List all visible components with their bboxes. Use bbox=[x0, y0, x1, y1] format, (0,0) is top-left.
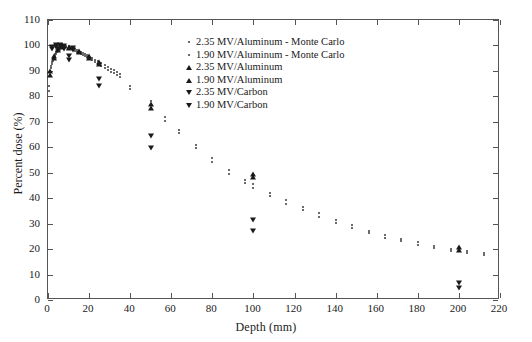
legend-marker-glyph bbox=[186, 90, 192, 95]
x-tick-label: 200 bbox=[450, 303, 467, 314]
x-tick-label: 100 bbox=[244, 303, 261, 314]
data-point bbox=[164, 116, 166, 118]
legend-marker-glyph bbox=[186, 65, 192, 70]
data-point bbox=[48, 90, 50, 92]
data-point bbox=[250, 217, 256, 222]
data-point bbox=[66, 58, 72, 63]
y-tick-label: 10 bbox=[0, 268, 40, 279]
data-point bbox=[96, 61, 102, 66]
x-tick-label: 180 bbox=[409, 303, 426, 314]
data-point bbox=[450, 250, 452, 252]
y-tick bbox=[48, 300, 53, 301]
down-triangle-icon bbox=[182, 103, 196, 108]
legend-item: 2.35 MV/Aluminum - Monte Carlo bbox=[182, 36, 382, 49]
data-point bbox=[195, 147, 197, 149]
dot-icon bbox=[182, 54, 196, 56]
data-point bbox=[302, 206, 304, 208]
data-point bbox=[113, 69, 115, 71]
legend-label: 1.90 MV/Aluminum bbox=[196, 74, 282, 87]
legend-item: 1.90 MV/Aluminum bbox=[182, 74, 382, 87]
data-point bbox=[116, 71, 118, 73]
data-point bbox=[70, 48, 76, 53]
y-tick bbox=[493, 300, 498, 301]
data-point bbox=[244, 182, 246, 184]
data-point bbox=[164, 120, 166, 122]
legend-marker-glyph bbox=[186, 78, 192, 83]
data-point bbox=[48, 85, 50, 87]
data-point bbox=[211, 161, 213, 163]
data-point bbox=[252, 187, 254, 189]
data-point bbox=[228, 173, 230, 175]
y-tick-label: 80 bbox=[0, 90, 40, 101]
legend-marker-glyph bbox=[188, 54, 190, 56]
data-point bbox=[456, 285, 462, 290]
data-point bbox=[148, 133, 154, 138]
data-point bbox=[110, 71, 112, 73]
x-tick-label: 60 bbox=[165, 303, 176, 314]
data-point bbox=[51, 56, 57, 61]
legend-item: 1.90 MV/Aluminum - Monte Carlo bbox=[182, 49, 382, 62]
x-tick-label: 80 bbox=[206, 303, 217, 314]
legend-label: 1.90 MV/Aluminum - Monte Carlo bbox=[196, 49, 344, 62]
data-point bbox=[351, 224, 353, 226]
data-point bbox=[107, 66, 109, 68]
data-point bbox=[351, 227, 353, 229]
data-point bbox=[252, 183, 254, 185]
data-point bbox=[244, 179, 246, 181]
x-tick-label: 220 bbox=[491, 303, 508, 314]
y-tick-label: 0 bbox=[0, 294, 40, 305]
data-point bbox=[384, 234, 386, 236]
data-point bbox=[250, 229, 256, 234]
x-tick bbox=[500, 20, 501, 25]
data-point bbox=[250, 175, 256, 180]
y-tick-label: 20 bbox=[0, 243, 40, 254]
y-tick-label: 50 bbox=[0, 166, 40, 177]
legend-label: 2.35 MV/Aluminum bbox=[196, 61, 282, 74]
data-point bbox=[335, 222, 337, 224]
data-point bbox=[51, 63, 53, 65]
data-point bbox=[116, 74, 118, 76]
data-point bbox=[318, 212, 320, 214]
data-point bbox=[302, 209, 304, 211]
x-tick-label: 140 bbox=[326, 303, 343, 314]
x-tick-label: 40 bbox=[124, 303, 135, 314]
y-tick-label: 40 bbox=[0, 192, 40, 203]
y-tick-label: 70 bbox=[0, 115, 40, 126]
legend-item: 2.35 MV/Aluminum bbox=[182, 61, 382, 74]
y-tick-label: 90 bbox=[0, 64, 40, 75]
data-point bbox=[47, 72, 53, 77]
legend-label: 2.35 MV/Aluminum - Monte Carlo bbox=[196, 36, 344, 49]
data-point bbox=[148, 105, 154, 110]
y-tick-label: 100 bbox=[0, 39, 40, 50]
data-point bbox=[148, 145, 154, 150]
data-point bbox=[129, 85, 131, 87]
legend-item: 1.90 MV/Carbon bbox=[182, 99, 382, 112]
x-tick-label: 120 bbox=[285, 303, 302, 314]
legend-label: 1.90 MV/Carbon bbox=[196, 99, 268, 112]
down-triangle-icon bbox=[182, 90, 196, 95]
legend-marker-glyph bbox=[188, 41, 190, 43]
data-point bbox=[129, 88, 131, 90]
y-tick-label: 30 bbox=[0, 217, 40, 228]
legend-marker-glyph bbox=[186, 103, 192, 108]
data-point bbox=[228, 169, 230, 171]
data-point bbox=[269, 192, 271, 194]
data-point bbox=[417, 244, 419, 246]
data-point bbox=[107, 69, 109, 71]
up-triangle-icon bbox=[182, 78, 196, 83]
legend-item: 2.35 MV/Carbon bbox=[182, 86, 382, 99]
data-point bbox=[119, 76, 121, 78]
data-point bbox=[318, 216, 320, 218]
data-point bbox=[86, 55, 92, 60]
data-point bbox=[285, 199, 287, 201]
data-point bbox=[119, 73, 121, 75]
data-point bbox=[456, 248, 462, 253]
data-point bbox=[96, 76, 102, 81]
data-point bbox=[368, 230, 370, 232]
x-tick-label: 160 bbox=[367, 303, 384, 314]
data-point bbox=[433, 247, 435, 249]
pdd-scatter-chart: Percent dose (%) Depth (mm) 010203040506… bbox=[0, 0, 532, 342]
data-point bbox=[211, 157, 213, 159]
data-point bbox=[61, 46, 67, 51]
data-point bbox=[110, 68, 112, 70]
